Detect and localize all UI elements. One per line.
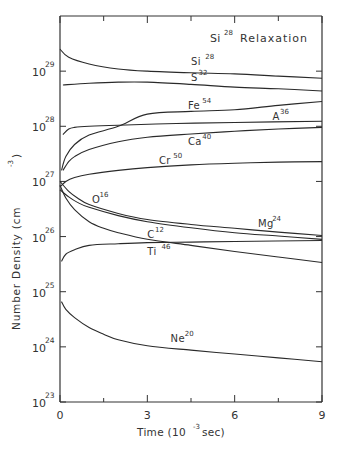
series-label-ne20: Ne20 [171,330,194,344]
y-tick-exponent: 24 [45,336,55,345]
series-label-mass: 40 [202,133,211,141]
series-label-cr50: Cr50 [159,152,182,166]
y-tick-exponent: 28 [45,115,55,124]
x-tick-label: 9 [319,409,326,422]
y-tick-exponent: 23 [45,391,55,400]
series-label-mass: 54 [202,97,211,105]
y-tick-exponent: 27 [45,170,55,179]
chart-title: Si 28 Relaxation [210,29,308,45]
y-tick-label: 10 [32,397,46,410]
series-line-s32 [63,82,322,91]
series-label-ti46: Ti46 [146,243,171,257]
x-tick-label: 0 [57,409,64,422]
title-rest: Relaxation [240,32,308,45]
x-tick-label: 3 [144,409,151,422]
series-label-c12: C12 [147,226,164,240]
title-sup: 28 [224,29,233,37]
series-label-a36: A36 [273,108,290,122]
series-label-element: Fe [188,100,200,111]
series-label-element: A [273,111,280,122]
curve-labels: Si28S32Fe54A36Ca40Cr50O16Mg24C12Ti46Ne20 [92,53,290,345]
xlabel-post: sec) [202,426,225,438]
series-label-ca40: Ca40 [188,133,211,147]
y-tick-label: 10 [32,342,46,355]
series-label-mass: 46 [162,243,171,251]
series-line-a36 [63,121,322,134]
series-label-mass: 50 [173,152,182,160]
y-axis-title: Number Density (cm -3 ) [7,154,22,330]
y-tick-exponent: 25 [45,281,55,290]
series-label-element: Ca [188,136,202,147]
series-label-mass: 28 [205,53,214,61]
y-tick-label: 10 [32,121,46,134]
series-line-cr50 [60,162,322,187]
series-label-mass: 12 [155,226,164,234]
series-label-mass: 20 [185,330,194,338]
series-label-element: S [191,72,198,83]
y-tick-label: 10 [32,176,46,189]
chart: 03691023102410251026102710281029 Si28S32… [0,0,339,449]
series-line-ca40 [63,127,322,170]
xlabel-pre: Time (10 [136,426,186,438]
series-label-mass: 36 [280,108,289,116]
y-tick-label: 10 [32,66,46,79]
y-tick-label: 10 [32,287,46,300]
series-label-s32: S32 [191,69,208,83]
series-label-mass: 24 [272,215,281,223]
series-label-element: C [147,229,154,240]
series-label-mass: 32 [199,69,208,77]
ylabel-post: ) [10,154,22,158]
y-tick-label: 10 [32,232,46,245]
series-label-o16: O16 [92,191,109,205]
series-label-mass: 16 [100,191,109,199]
x-axis-title: Time (10 -3 sec) [136,423,225,438]
series-label-element: Ne [171,333,185,344]
series-label-element: Ti [146,246,156,257]
series-label-element: Si [191,56,201,67]
y-tick-exponent: 26 [45,226,55,235]
series-label-element: Cr [159,155,171,166]
series-line-ti46 [61,240,322,261]
ticks: 03691023102410251026102710281029 [32,16,326,422]
series-label-mg24: Mg24 [258,215,282,229]
title-base: Si [210,32,221,45]
x-tick-label: 6 [231,409,238,422]
xlabel-sup: -3 [193,423,200,431]
series-label-si28: Si28 [191,53,214,67]
ylabel-pre: Number Density (cm [10,207,22,330]
y-tick-exponent: 29 [45,60,55,69]
ylabel-sup: -3 [7,160,15,167]
series-label-fe54: Fe54 [188,97,212,111]
